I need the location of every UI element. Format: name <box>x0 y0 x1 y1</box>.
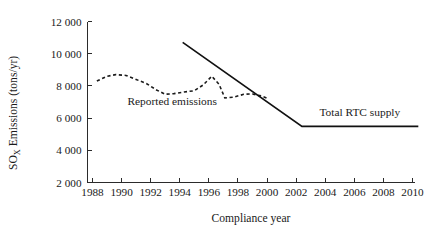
y-tick-label-12000: 12 000 <box>51 16 82 28</box>
y-tick-labels: 2 0004 0006 0008 00010 00012 000 <box>51 16 82 189</box>
x-tick-label-2010: 2010 <box>401 186 424 198</box>
x-axis-title: Compliance year <box>212 212 291 225</box>
annotation-reported-emissions: Reported emissions <box>127 95 217 107</box>
x-tick-label-1988: 1988 <box>81 186 104 198</box>
x-tick-label-1996: 1996 <box>198 186 221 198</box>
chart-figure: 2 0004 0006 0008 00010 00012 000 1988199… <box>0 0 434 234</box>
y-tick-label-6000: 6 000 <box>56 112 82 124</box>
x-tick-label-2006: 2006 <box>343 186 366 198</box>
y-tick-label-8000: 8 000 <box>56 80 82 92</box>
y-tick-label-10000: 10 000 <box>51 48 82 60</box>
annotation-total-rtc-supply: Total RTC supply <box>319 106 400 118</box>
x-tick-label-1994: 1994 <box>169 186 192 198</box>
x-tick-label-1992: 1992 <box>139 186 161 198</box>
x-tick-label-2000: 2000 <box>256 186 279 198</box>
y-tick-marks <box>88 22 93 183</box>
x-tick-label-2008: 2008 <box>372 186 395 198</box>
y-tick-label-4000: 4 000 <box>56 144 82 156</box>
x-tick-label-1990: 1990 <box>110 186 133 198</box>
x-tick-label-2004: 2004 <box>314 186 337 198</box>
x-tick-label-2002: 2002 <box>285 186 307 198</box>
y-axis-title-main: SO <box>7 155 20 170</box>
y-axis-title: SOX Emissions (tons/yr) <box>7 56 22 170</box>
sox-emissions-line-chart: 2 0004 0006 0008 00010 00012 000 1988199… <box>0 0 434 234</box>
x-tick-marks <box>93 178 413 183</box>
y-axis-title-rest: Emissions (tons/yr) <box>7 56 20 150</box>
x-tick-label-1998: 1998 <box>227 186 250 198</box>
x-tick-labels: 1988199019921994199619982000200220042006… <box>81 186 424 198</box>
y-tick-label-2000: 2 000 <box>56 177 82 189</box>
